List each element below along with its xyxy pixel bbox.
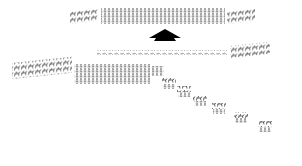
top-left-cavalry-formation [70,9,98,24]
echelon-unit [193,95,207,106]
formation-diagram [0,0,302,166]
advance-arrow-icon [149,29,181,41]
middle-right-cavalry-formation [230,42,270,58]
lower-small-infantry-formation [152,66,164,76]
top-right-cavalry-formation [227,9,255,24]
echelon-unit [234,112,248,123]
middle-line-infantry-formation [97,50,227,56]
lower-center-infantry-formation [74,64,150,84]
echelon-unit [258,121,272,132]
echelon-unit [162,78,176,89]
echelon-unit [212,103,226,114]
top-center-infantry-formation [101,8,225,24]
echelon-unit [177,86,191,97]
lower-left-cavalry-formation [12,57,72,79]
